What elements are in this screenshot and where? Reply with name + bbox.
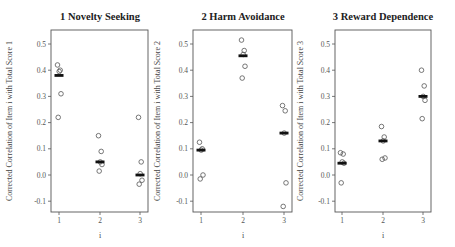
median-bar <box>96 161 105 164</box>
y-tick-label: -0.1 <box>176 197 188 206</box>
data-point <box>383 156 388 161</box>
data-point <box>338 150 343 155</box>
median-bar <box>419 95 428 98</box>
data-point <box>284 181 289 186</box>
figure: 1 Novelty Seeking Corrected Correlation … <box>0 0 455 247</box>
data-point <box>136 115 141 120</box>
x-axis-label: i <box>242 231 245 240</box>
data-point <box>422 84 427 89</box>
x-tick-label: 3 <box>138 216 142 225</box>
data-point <box>97 169 102 174</box>
plot-frame <box>193 30 292 212</box>
y-axis-label: Corrected Correlation of Item i with Tot… <box>296 41 305 201</box>
y-tick-label: 0.0 <box>321 171 331 180</box>
y-axis-label: Corrected Correlation of Item i with Tot… <box>153 41 162 201</box>
data-point <box>197 140 202 145</box>
median-bar <box>239 54 248 57</box>
data-point <box>339 181 344 186</box>
x-axis-label: i <box>382 231 385 240</box>
data-point <box>55 63 60 68</box>
data-point <box>198 177 203 182</box>
plot-frame <box>335 30 431 212</box>
y-tick-label: 0.3 <box>37 92 47 101</box>
y-axis-label: Corrected Correlation of Item i with Tot… <box>5 41 14 201</box>
panel-title: 1 Novelty Seeking <box>60 11 141 22</box>
data-point <box>420 116 425 121</box>
y-tick-label: 0.1 <box>37 144 47 153</box>
data-point <box>280 103 285 108</box>
data-point <box>59 91 64 96</box>
figure-svg: 1 Novelty Seeking Corrected Correlation … <box>0 0 455 247</box>
x-tick-label: 1 <box>340 216 344 225</box>
data-point <box>139 160 144 165</box>
y-tick-label: 0.5 <box>179 40 189 49</box>
x-tick-label: 3 <box>421 216 425 225</box>
x-tick-label: 2 <box>241 216 245 225</box>
plot-area: 0.50.40.30.20.10.0-0.1123 <box>176 30 292 225</box>
x-tick-label: 2 <box>381 216 385 225</box>
y-tick-label: 0.1 <box>179 144 189 153</box>
data-point <box>239 38 244 43</box>
y-tick-label: 0.3 <box>179 92 189 101</box>
y-tick-label: 0.5 <box>321 40 331 49</box>
x-axis-label: i <box>99 231 102 240</box>
data-point <box>96 133 101 138</box>
y-tick-label: 0.4 <box>179 66 189 75</box>
data-point <box>281 204 286 209</box>
y-tick-label: 0.2 <box>179 118 189 127</box>
panel-reward-dependence: 3 Reward Dependence Corrected Correlatio… <box>296 11 433 240</box>
y-tick-label: 0.1 <box>321 144 331 153</box>
data-point <box>240 76 245 81</box>
panel-title: 2 Harm Avoidance <box>201 11 285 22</box>
data-point <box>419 68 424 73</box>
y-tick-label: -0.1 <box>318 197 330 206</box>
median-bar <box>55 74 64 77</box>
y-tick-label: -0.1 <box>34 197 46 206</box>
median-bar <box>197 149 206 152</box>
median-bar <box>338 162 347 165</box>
y-tick-label: 0.2 <box>321 118 331 127</box>
data-point <box>379 124 384 129</box>
data-point <box>137 182 142 187</box>
panel-novelty-seeking: 1 Novelty Seeking Corrected Correlation … <box>5 11 148 240</box>
y-tick-label: 0.0 <box>179 171 189 180</box>
plot-area: 0.50.40.30.20.10.0-0.1123 <box>34 30 148 225</box>
x-tick-label: 2 <box>98 216 102 225</box>
plot-frame <box>51 30 148 212</box>
data-point <box>283 109 288 114</box>
y-tick-label: 0.2 <box>37 118 47 127</box>
y-tick-label: 0.3 <box>321 92 331 101</box>
y-tick-label: 0.4 <box>321 66 331 75</box>
data-point <box>99 149 104 154</box>
x-tick-label: 1 <box>199 216 203 225</box>
panel-harm-avoidance: 2 Harm Avoidance Corrected Correlation o… <box>153 11 292 240</box>
x-tick-label: 3 <box>282 216 286 225</box>
data-point <box>56 115 61 120</box>
data-point <box>243 64 248 69</box>
x-tick-label: 1 <box>57 216 61 225</box>
median-bar <box>379 140 388 143</box>
data-point <box>57 69 62 74</box>
median-bar <box>280 132 289 135</box>
data-point <box>341 152 346 157</box>
data-point <box>423 98 428 103</box>
data-point <box>380 157 385 162</box>
y-tick-label: 0.4 <box>37 66 47 75</box>
plot-area: 0.50.40.30.20.10.0-0.1123 <box>318 30 431 225</box>
median-bar <box>136 174 145 177</box>
y-tick-label: 0.5 <box>37 40 47 49</box>
panel-title: 3 Reward Dependence <box>333 11 434 22</box>
y-tick-label: 0.0 <box>37 171 47 180</box>
